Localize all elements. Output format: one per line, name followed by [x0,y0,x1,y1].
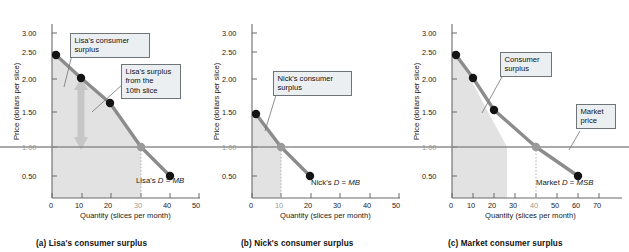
x-tick-label: 0 [49,201,53,210]
y-axis-title: Price (dollars per slice) [412,63,421,140]
panel-caption-a: (a) Lisa's consumer surplus [36,239,147,248]
callout-nicks-consumer-surplus: Nick's consumer surplus [273,71,352,96]
data-point [469,74,477,82]
curve-label-mb: MB [348,178,360,187]
curve-label-nick-demand: Nick's D = MB [311,178,360,187]
curve-label-mb: MSB [577,178,594,187]
y-tick-label: 3.00 [22,29,36,38]
curve-label-eq: = [339,178,348,187]
y-tick-label-highlight: 1.00 [22,143,36,152]
x-tick-label-highlight: 30 [134,201,142,210]
shaded-amount-paid-c [452,147,507,198]
x-tick-label: 40 [363,201,371,210]
panel-c-market-consumer-surplus: 3.00 2.50 2.00 1.50 1.00 0.50 0 10 20 30… [410,0,629,252]
y-tick-label: 2.00 [222,75,236,84]
y-tick-label: 3.00 [422,29,436,38]
data-point [52,51,60,59]
panel-caption-b: (b) Nick's consumer surplus [241,239,353,248]
callout-leader-line [265,95,276,131]
y-tick-label: 2.50 [22,48,36,57]
x-axis-title: Quantity (slices per month) [80,211,171,220]
curve-label-eq: = [568,178,577,187]
y-tick-label: 1.50 [22,108,36,117]
data-point [452,51,460,59]
x-tick-label: 30 [509,201,517,210]
x-tick-label: 10 [467,201,475,210]
x-tick-label: 10 [75,201,83,210]
y-tick-label-highlight: 1.00 [222,143,236,152]
curve-label-mb: MB [172,176,184,185]
panel-caption-c: (c) Market consumer surplus [448,239,563,248]
x-tick-label: 40 [163,201,171,210]
x-tick-label: 20 [104,201,112,210]
y-tick-label: 0.50 [422,172,436,181]
curve-label-market-demand: Market D = MSB [536,178,593,187]
data-point [532,143,540,151]
curve-label-text: Nick's [311,178,334,187]
y-axis-title: Price (dollars per slice) [212,63,221,140]
data-point [106,99,114,107]
data-point [252,110,260,118]
x-tick-label-highlight: 40 [530,201,538,210]
y-tick-label: 0.50 [22,172,36,181]
y-tick-label: 0.50 [222,172,236,181]
y-tick-label: 2.00 [422,75,436,84]
x-axis-title: Quantity (slices per month) [280,211,371,220]
x-axis-title: Quantity (slices per month) [485,211,576,220]
data-point [490,106,498,114]
x-tick-label: 50 [551,201,559,210]
y-tick-label: 1.50 [422,108,436,117]
x-tick-label-highlight: 10 [275,201,283,210]
x-tick-label: 0 [449,201,453,210]
y-tick-label: 1.50 [222,108,236,117]
y-tick-label: 2.50 [222,48,236,57]
y-tick-label: 3.00 [222,29,236,38]
consumer-surplus-figure: 3.00 2.50 2.00 1.50 1.00 0.50 0 10 20 30… [0,0,629,252]
x-tick-label: 20 [304,201,312,210]
x-tick-label: 50 [192,201,200,210]
shaded-amount-paid-a [52,147,141,198]
x-tick-label: 50 [392,201,400,210]
curve-label-text: Market [536,178,562,187]
callout-market-price: Market price [576,104,616,129]
x-tick-label: 30 [333,201,341,210]
callout-lisas-consumer-surplus: Lisa's consumer surplus [70,33,150,58]
x-tick-label: 0 [249,201,253,210]
curve-label-lisa-demand: Lisa's D = MB [136,176,184,185]
callout-consumer-surplus: Consumer surplus [500,52,552,77]
data-point [137,143,145,151]
curve-label-text: Lisa's [136,176,158,185]
y-tick-label: 2.00 [22,75,36,84]
shaded-consumer-surplus-c [452,52,507,147]
data-point [277,143,285,151]
x-tick-label: 20 [488,201,496,210]
y-tick-label: 2.50 [422,48,436,57]
panel-b-nicks-consumer-surplus: 3.00 2.50 2.00 1.50 1.00 0.50 0 10 20 30… [205,0,410,252]
callout-lisas-surplus-10th-slice: Lisa's surplus from the 10th slice [121,64,181,99]
panel-a-lisas-consumer-surplus: 3.00 2.50 2.00 1.50 1.00 0.50 0 10 20 30… [0,0,205,252]
y-tick-label-highlight: 1.00 [422,143,436,152]
shaded-amount-paid-b [252,147,281,198]
y-axis-title: Price (dollars per slice) [12,63,21,140]
data-point [77,74,85,82]
x-tick-label: 60 [572,201,580,210]
x-tick-label: 70 [593,201,601,210]
